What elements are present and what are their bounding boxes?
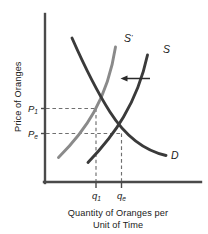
x-axis-title-line-2: Unit of Time xyxy=(93,220,143,230)
y-tick-label-p1: P1 xyxy=(28,103,38,115)
curve-demand xyxy=(72,38,166,156)
x-axis-title-line-1: Quantity of Oranges per xyxy=(68,208,168,218)
y-tick-label-pe: Pe xyxy=(28,128,38,140)
curve-label-supply: S xyxy=(163,43,170,55)
guide-lines-group xyxy=(46,109,122,182)
chart-svg: S' S D P1 Pe q1 qe Price of Oranges Quan… xyxy=(0,0,208,234)
supply-demand-figure: S' S D P1 Pe q1 qe Price of Oranges Quan… xyxy=(0,0,208,234)
x-tick-label-q1: q1 xyxy=(92,190,101,202)
curve-label-demand: D xyxy=(171,149,179,161)
y-axis-title: Price of Oranges xyxy=(13,61,23,132)
curve-label-shifted-supply: S' xyxy=(124,32,133,44)
shift-arrow-icon xyxy=(121,76,151,82)
x-tick-label-qe: qe xyxy=(117,190,126,202)
